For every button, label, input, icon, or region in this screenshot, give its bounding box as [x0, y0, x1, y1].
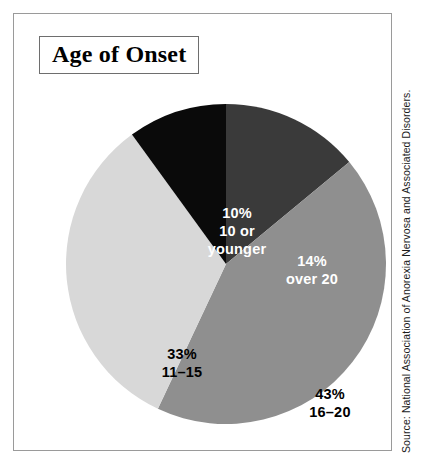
pie-label-10-or-younger-range-line1: 10 or — [189, 222, 285, 240]
pie-label-16-20-percent: 43% — [287, 385, 373, 403]
pie-label-over-20-percent: 14% — [266, 252, 358, 270]
chart-title-box: Age of Onset — [39, 36, 199, 74]
pie-label-10-or-younger-percent: 10% — [189, 204, 285, 222]
pie-label-11-15: 33% 11–15 — [142, 345, 222, 381]
pie-label-16-20: 43% 16–20 — [287, 385, 373, 421]
pie-label-16-20-range: 16–20 — [287, 403, 373, 421]
page-title: Age of Onset — [52, 40, 186, 68]
source-note: Source: National Association of Anorexia… — [395, 0, 417, 453]
pie-label-11-15-percent: 33% — [142, 345, 222, 363]
pie-label-11-15-range: 11–15 — [142, 363, 222, 381]
figure-frame: Age of Onset 10% 10 or younger 14% over … — [13, 13, 392, 451]
pie-label-10-or-younger: 10% 10 or younger — [189, 204, 285, 258]
pie-label-over-20-range: over 20 — [266, 270, 358, 288]
pie-label-over-20: 14% over 20 — [266, 252, 358, 288]
pie-chart: 10% 10 or younger 14% over 20 33% 11–15 … — [66, 102, 386, 424]
